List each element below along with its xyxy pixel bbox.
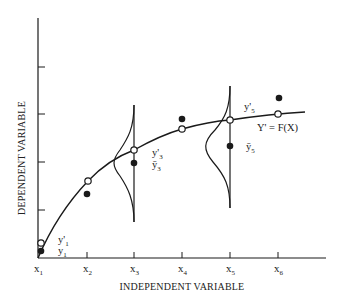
observed-point-4	[179, 116, 186, 123]
x-tick-labels: x1 x2 x3 x4 x5 x6	[34, 262, 284, 277]
x-axis-title: INDEPENDENT VARIABLE	[120, 281, 245, 292]
regression-diagram: x1 x2 x3 x4 x5 x6 INDEPENDENT VARIABLE D…	[0, 0, 342, 302]
observed-point-6	[276, 95, 283, 102]
x-ticks	[87, 252, 278, 258]
x-tick-1: x1	[34, 262, 44, 277]
fitted-point-5	[227, 117, 233, 123]
fitted-point-6	[275, 111, 281, 117]
x-tick-3: x3	[130, 262, 140, 277]
observed-points	[38, 95, 283, 255]
y-axis-title: DEPENDENT VARIABLE	[16, 101, 27, 215]
fitted-points	[38, 111, 281, 246]
x-tick-6: x6	[274, 262, 284, 277]
observed-point-5	[227, 143, 234, 150]
observed-point-1	[38, 248, 45, 255]
x-tick-5: x5	[226, 262, 236, 277]
observed-point-3	[131, 160, 138, 167]
label-y5-bar: ȳ5	[246, 141, 255, 155]
x-tick-2: x2	[83, 262, 93, 277]
fitted-point-2	[85, 178, 91, 184]
fitted-point-3	[131, 147, 137, 153]
observed-point-2	[84, 191, 91, 198]
fitted-point-4	[179, 126, 185, 132]
curve-equation-label: Y' = F(X)	[257, 122, 299, 134]
label-y3-bar: ȳ3	[152, 159, 161, 173]
fitted-curve	[38, 112, 305, 258]
fitted-point-1	[38, 240, 44, 246]
x-tick-4: x4	[178, 262, 188, 277]
y-ticks	[38, 67, 45, 210]
label-y5-prime: y'5	[244, 101, 255, 115]
distribution-x5	[206, 86, 230, 208]
